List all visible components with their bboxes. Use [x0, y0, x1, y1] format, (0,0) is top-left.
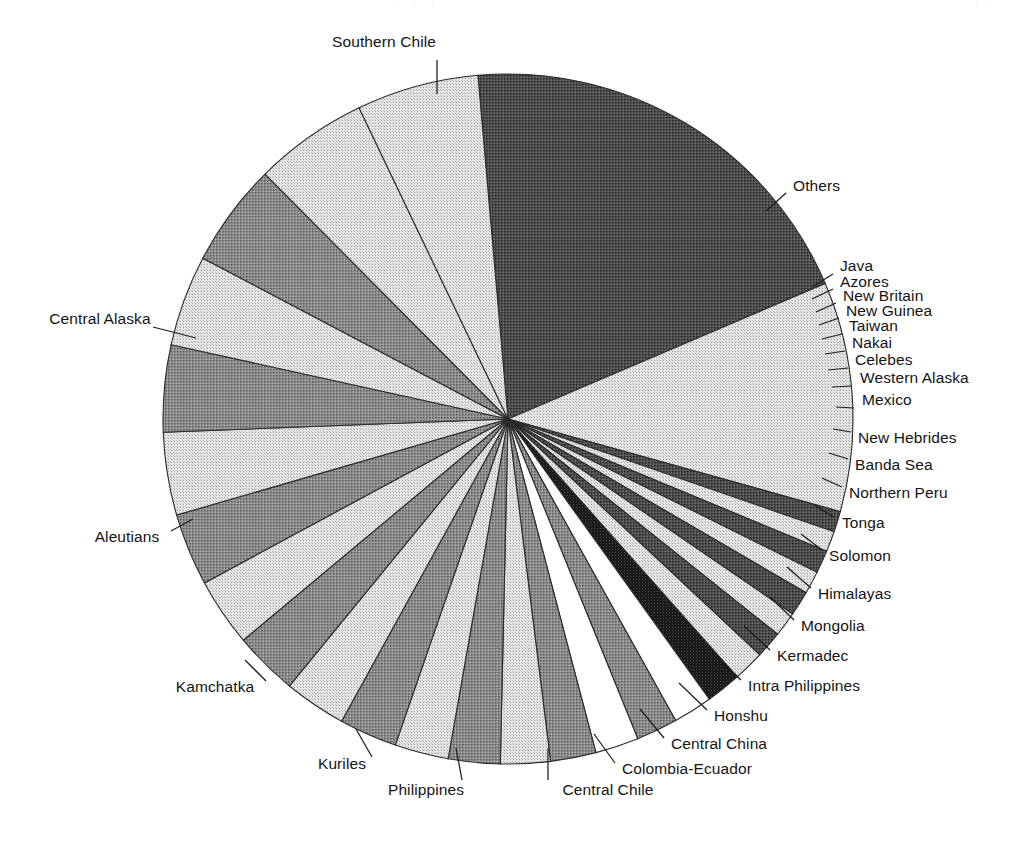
slice-label-banda-sea: Banda Sea	[855, 457, 933, 473]
slice-label-honshu: Honshu	[714, 708, 768, 724]
slice-label-java: Java	[840, 258, 873, 274]
slice-label-taiwan: Taiwan	[849, 318, 898, 334]
slice-label-southern-chile: Southern Chile	[234, 34, 534, 50]
slice-label-himalayas: Himalayas	[818, 586, 891, 602]
slice-label-philippines: Philippines	[276, 782, 576, 798]
slice-label-kermadec: Kermadec	[777, 648, 848, 664]
slice-label-central-alaska: Central Alaska	[0, 311, 250, 327]
slice-label-kamchatka: Kamchatka	[65, 679, 365, 695]
slice-label-new-hebrides: New Hebrides	[858, 430, 957, 446]
slice-label-aleutians: Aleutians	[0, 529, 277, 545]
slice-label-celebes: Celebes	[855, 352, 913, 368]
slice-label-northern-peru: Northern Peru	[849, 485, 948, 501]
slice-label-solomon: Solomon	[829, 548, 891, 564]
slice-label-nakai: Nakai	[852, 335, 892, 351]
pie-chart-figure: · · · · ·	[0, 0, 1018, 849]
slice-label-central-china: Central China	[671, 736, 767, 752]
pie-slices	[163, 74, 853, 764]
slice-label-western-alaska: Western Alaska	[860, 370, 969, 386]
slice-label-tonga: Tonga	[842, 515, 885, 531]
slice-label-colombia-ecuador: Colombia-Ecuador	[622, 761, 752, 777]
pie-chart-canvas	[0, 0, 1018, 849]
slice-label-kuriles: Kuriles	[192, 756, 492, 772]
slice-label-mongolia: Mongolia	[801, 618, 865, 634]
slice-label-mexico: Mexico	[862, 392, 912, 408]
slice-label-intra-philippines: Intra Philippines	[748, 678, 860, 694]
slice-label-others: Others	[793, 178, 840, 194]
